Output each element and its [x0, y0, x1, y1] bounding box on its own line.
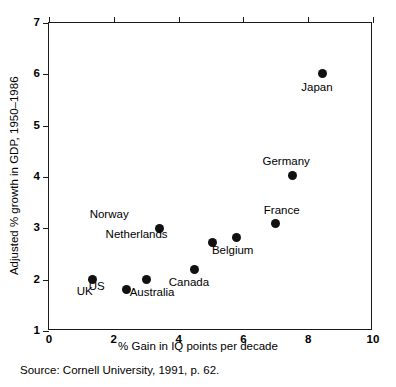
data-point-japan[interactable] [318, 69, 327, 78]
x-axis-tick [373, 17, 374, 23]
data-point-label-canada: Canada [169, 277, 209, 289]
x-axis-tick [49, 17, 50, 23]
y-axis-tick [43, 23, 49, 24]
plot-area: 12345670246810UKUSAustraliaNorwayCanadaN… [48, 22, 372, 330]
scatter-chart-figure: Adjusted % growth in GDP, 1950–1986 1234… [0, 0, 396, 387]
y-axis-tick [43, 177, 49, 178]
y-axis-tick [43, 126, 49, 127]
data-point-label-japan: Japan [301, 82, 332, 94]
y-axis-tick-label: 5 [34, 120, 40, 132]
source-note: Source: Cornell University, 1991, p. 62. [20, 365, 219, 377]
y-axis-tick [43, 74, 49, 75]
data-point-label-us: US [89, 281, 105, 293]
x-axis-tick [308, 17, 309, 23]
data-point-label-netherlands: Netherlands [106, 229, 168, 241]
y-axis-tick [43, 280, 49, 281]
data-point-label-france: France [264, 205, 300, 217]
y-axis-title-text: Adjusted % growth in GDP, 1950–1986 [8, 77, 20, 276]
x-axis-title: % Gain in IQ points per decade [0, 341, 396, 353]
y-axis-title: Adjusted % growth in GDP, 1950–1986 [6, 22, 22, 330]
data-point-label-australia: Australia [130, 287, 175, 299]
data-point-australia[interactable] [142, 275, 151, 284]
x-axis-tick [114, 17, 115, 23]
y-axis-tick-label: 2 [34, 274, 40, 286]
y-axis-tick [43, 331, 49, 332]
data-point-label-germany: Germany [263, 156, 310, 168]
data-point-belgium[interactable] [232, 233, 241, 242]
y-axis-tick-label: 3 [34, 223, 40, 235]
y-axis-tick-label: 4 [34, 171, 40, 183]
data-point-canada[interactable] [190, 265, 199, 274]
data-point-france[interactable] [271, 219, 280, 228]
data-point-label-norway: Norway [90, 209, 129, 221]
x-axis-tick [243, 17, 244, 23]
x-axis-tick [179, 17, 180, 23]
data-point-germany[interactable] [288, 171, 297, 180]
data-point-label-belgium: Belgium [212, 245, 254, 257]
y-axis-tick-label: 6 [34, 69, 40, 81]
y-axis-tick-label: 1 [34, 325, 40, 337]
y-axis-tick-label: 7 [34, 17, 40, 29]
y-axis-tick [43, 228, 49, 229]
